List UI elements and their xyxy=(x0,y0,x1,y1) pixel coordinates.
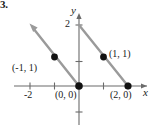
figure-container: 3. y x 2 -2 (-1, 1) (0, 0) (1, 1) (2, xyxy=(0,0,154,132)
point-label-1-1: (1, 1) xyxy=(109,48,131,59)
point-label-origin: (0, 0) xyxy=(55,89,77,100)
x-tick-label-minus2: -2 xyxy=(24,89,32,100)
y-axis-arrow-icon xyxy=(76,13,81,19)
data-point-minus1-1 xyxy=(51,54,58,61)
x-axis-label: x xyxy=(143,86,148,98)
point-label-2-0: (2, 0) xyxy=(110,89,132,100)
y-axis-label: y xyxy=(71,4,76,16)
point-label-minus1-1: (-1, 1) xyxy=(12,62,37,73)
y-tick-label-2: 2 xyxy=(65,18,70,29)
data-point-1-1 xyxy=(100,54,107,61)
